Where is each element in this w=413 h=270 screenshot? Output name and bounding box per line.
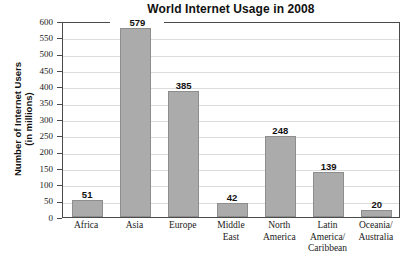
bar-value-label: 51 [62,190,112,200]
bar [313,172,344,217]
x-axis: AfricaAsiaEuropeMiddleEastNorthAmericaLa… [62,220,400,270]
y-tick-label: 50 [9,197,53,206]
x-tick-label-line: America/ [303,232,351,244]
y-tick-label: 250 [9,132,53,141]
y-tick-label: 100 [9,181,53,190]
bar [361,210,392,217]
gridline [63,88,399,89]
y-tick-label: 450 [9,67,53,76]
y-tick-label: 0 [9,214,53,223]
bar-value-label: 20 [352,200,402,210]
x-tick-label-line: America [255,232,303,244]
x-tick-label-line: Africa [62,220,110,232]
gridline [63,105,399,106]
y-tick-label: 550 [9,34,53,43]
bar [217,203,248,217]
x-tick-label: Oceania/Australia [352,220,400,243]
x-tick-label: Africa [62,220,110,232]
x-tick-label: Europe [159,220,207,232]
gridline [63,39,399,40]
bar [265,136,296,217]
x-tick-label-line: Oceania/ [352,220,400,232]
y-tick-mark [57,218,62,219]
bar-value-label: 385 [159,81,209,91]
x-tick-label-line: Latin [303,220,351,232]
x-tick-label-line: North [255,220,303,232]
gridline [63,121,399,122]
bar [168,91,199,217]
y-tick-label: 150 [9,165,53,174]
x-tick-label: NorthAmerica [255,220,303,243]
y-tick-label: 400 [9,83,53,92]
gridline [63,186,399,187]
y-tick-label: 500 [9,50,53,59]
x-tick-label-line: Asia [110,220,158,232]
bar-value-label: 248 [255,126,305,136]
bar [72,200,103,217]
x-tick-label-line: Caribbean [303,243,351,255]
plot-area: 515793854224813920 [62,22,400,218]
x-tick-label-line: Australia [352,232,400,244]
y-axis: 050100150200250300350400450500550600 [0,22,62,218]
bar-value-label: 42 [207,193,257,203]
x-tick-label-line: Europe [159,220,207,232]
x-tick-label: MiddleEast [207,220,255,243]
y-tick-label: 600 [9,18,53,27]
gridline [63,56,399,57]
gridline [63,154,399,155]
gridline [63,72,399,73]
gridlines [63,23,399,217]
gridline [63,137,399,138]
x-tick-label-line: Middle [207,220,255,232]
x-tick-label: LatinAmerica/Caribbean [303,220,351,255]
chart-title: World Internet Usage in 2008 [62,2,400,16]
y-tick-label: 350 [9,99,53,108]
bar-value-label: 139 [304,162,354,172]
x-tick-label-line: East [207,232,255,244]
bar [120,28,151,217]
bar-value-label: 579 [110,18,164,28]
x-tick-label: Asia [110,220,158,232]
y-tick-label: 300 [9,116,53,125]
chart-screenshot: World Internet Usage in 2008 Number of I… [0,0,413,270]
y-tick-label: 200 [9,148,53,157]
